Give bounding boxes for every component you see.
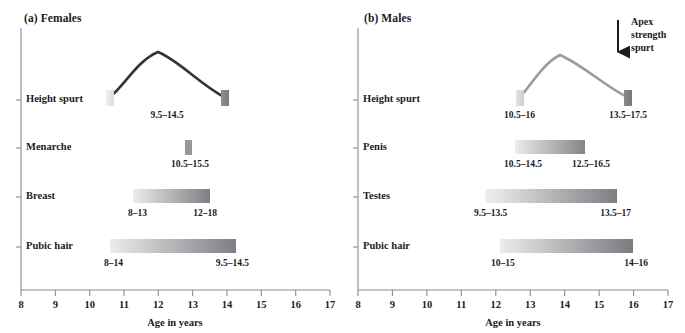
- x-tick-label: 11: [119, 299, 129, 310]
- x-ticks-males: 8 9 10 11 12 13 14 15 16 17: [355, 290, 673, 310]
- penis-end-label: 12.5–16.5: [572, 159, 610, 169]
- y-ticks-females: [16, 100, 21, 247]
- x-tick-label: 16: [290, 299, 301, 310]
- breast-bar: [133, 189, 210, 203]
- x-tick-label: 15: [256, 299, 267, 310]
- x-tick-label: 17: [325, 299, 336, 310]
- x-tick-label: 8: [355, 299, 360, 310]
- row-label-penis: Penis: [363, 141, 387, 152]
- row-label-breast: Breast: [26, 190, 55, 201]
- apex-annotation-line: spurt: [631, 42, 654, 53]
- x-tick-label: 10: [84, 299, 95, 310]
- row-label-height-spurt-males: Height spurt: [363, 93, 420, 104]
- apex-annotation-line: Apex: [631, 16, 653, 27]
- x-tick-label: 14: [222, 299, 233, 310]
- height-spurt-start-marker-females: [106, 90, 114, 106]
- y-ticks-males: [353, 100, 358, 247]
- pubic-hair-bar-males: [500, 239, 633, 253]
- x-tick-label: 16: [628, 299, 639, 310]
- x-tick-label: 13: [525, 299, 536, 310]
- chart-svg-females: 8 9 10 11 12 13 14 15 16 17 Age in years…: [0, 0, 343, 333]
- x-axis-title-females: Age in years: [147, 317, 202, 328]
- penis-start-label: 10.5–14.5: [504, 159, 542, 169]
- x-tick-label: 17: [663, 299, 674, 310]
- pubic-hair-end-label-males: 14–16: [624, 258, 648, 268]
- x-tick-label: 9: [390, 299, 395, 310]
- menarche-range-label: 10.5–15.5: [171, 159, 209, 169]
- height-spurt-end-marker-females: [221, 90, 229, 106]
- height-spurt-start-marker-males: [516, 90, 524, 106]
- row-label-testes: Testes: [363, 190, 390, 201]
- breast-end-label: 12–18: [193, 208, 217, 218]
- panel-males: (b) Males: [343, 0, 685, 333]
- height-spurt-end-label-males: 13.5–17.5: [609, 110, 647, 120]
- height-spurt-range-label-females: 9.5–14.5: [150, 110, 184, 120]
- pubic-hair-start-label-males: 10–15: [491, 258, 515, 268]
- menarche-marker: [185, 140, 192, 155]
- testes-start-label: 9.5–13.5: [474, 208, 508, 218]
- height-spurt-curve-males: [520, 55, 627, 97]
- row-label-menarche: Menarche: [26, 141, 72, 152]
- x-tick-label: 14: [559, 299, 570, 310]
- pubic-hair-bar-females: [110, 239, 236, 253]
- height-spurt-start-label-males: 10.5–16: [504, 110, 535, 120]
- x-tick-label: 9: [53, 299, 58, 310]
- penis-bar: [515, 140, 585, 154]
- pubic-hair-end-label-females: 9.5–14.5: [216, 258, 250, 268]
- x-tick-label: 13: [187, 299, 198, 310]
- x-axis-title-males: Age in years: [485, 317, 540, 328]
- apex-annotation-line: strength: [631, 29, 667, 40]
- row-label-pubic-hair-males: Pubic hair: [363, 240, 410, 251]
- testes-end-label: 13.5–17: [600, 208, 631, 218]
- x-ticks-females: 8 9 10 11 12 13 14 15 16 17: [18, 290, 335, 310]
- height-spurt-end-marker-males: [624, 90, 632, 106]
- panel-females: (a) Females: [0, 0, 343, 333]
- x-tick-label: 15: [594, 299, 605, 310]
- x-tick-label: 10: [422, 299, 433, 310]
- chart-svg-males: 8 9 10 11 12 13 14 15 16 17 Age in years…: [343, 0, 685, 333]
- x-tick-label: 12: [491, 299, 502, 310]
- testes-bar: [485, 189, 617, 203]
- x-tick-label: 11: [456, 299, 466, 310]
- row-label-pubic-hair: Pubic hair: [26, 240, 73, 251]
- x-tick-label: 8: [18, 299, 23, 310]
- pubic-hair-start-label-females: 8–14: [104, 258, 123, 268]
- x-tick-label: 12: [153, 299, 164, 310]
- height-spurt-curve-females: [110, 52, 224, 97]
- breast-start-label: 8–13: [128, 208, 147, 218]
- row-label-height-spurt: Height spurt: [26, 93, 83, 104]
